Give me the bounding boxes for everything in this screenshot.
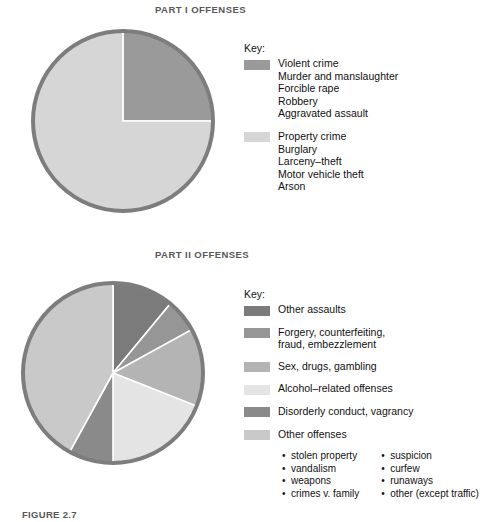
swatch-alcohol-related bbox=[244, 385, 270, 395]
bullet-curfew: curfew bbox=[381, 463, 479, 476]
sub-item-forcible-rape: Forcible rape bbox=[278, 82, 398, 95]
key-label-sex-drugs-gambling: Sex, drugs, gambling bbox=[278, 360, 377, 373]
key-row-other-offenses: Other offenses bbox=[244, 428, 413, 441]
figure-caption-number: FIGURE 2.7 bbox=[22, 509, 77, 520]
part-2-pie-chart bbox=[20, 280, 206, 466]
key-row-sex-drugs-gambling: Sex, drugs, gambling bbox=[244, 360, 413, 373]
sub-item-burglary: Burglary bbox=[278, 143, 398, 156]
bullet-column-right: suspicion curfew runaways other (except … bbox=[381, 450, 479, 500]
part-1-key-heading: Key: bbox=[244, 42, 398, 54]
key-row-forgery: Forgery, counterfeiting, fraud, embezzle… bbox=[244, 326, 413, 351]
key-label-alcohol-related: Alcohol–related offenses bbox=[278, 382, 393, 395]
key-row-disorderly-conduct: Disorderly conduct, vagrancy bbox=[244, 405, 413, 418]
swatch-disorderly-conduct bbox=[244, 407, 270, 417]
bullet-vandalism: vandalism bbox=[282, 463, 359, 476]
bullet-other-except-traffic: other (except traffic) bbox=[381, 488, 479, 501]
key-label-forgery-line1: Forgery, counterfeiting, bbox=[278, 326, 385, 339]
key-row-other-assaults: Other assaults bbox=[244, 303, 413, 316]
key-label-other-assaults: Other assaults bbox=[278, 303, 346, 316]
sub-list-violent-crime: Murder and manslaughter Forcible rape Ro… bbox=[278, 70, 398, 120]
bullet-suspicion: suspicion bbox=[381, 450, 479, 463]
sub-item-robbery: Robbery bbox=[278, 95, 398, 108]
sub-item-larceny-theft: Larceny–theft bbox=[278, 155, 398, 168]
part-1-pie-svg bbox=[30, 28, 216, 214]
key-row-alcohol-related: Alcohol–related offenses bbox=[244, 382, 413, 395]
bullet-crimes-v-family: crimes v. family bbox=[282, 488, 359, 501]
bullet-stolen-property: stolen property bbox=[282, 450, 359, 463]
bullet-column-left: stolen property vandalism weapons crimes… bbox=[282, 450, 359, 500]
part-1-key: Key: Violent crime Murder and manslaught… bbox=[244, 42, 398, 193]
key-label-property-crime: Property crime bbox=[278, 130, 346, 143]
other-offenses-bullet-list: stolen property vandalism weapons crimes… bbox=[282, 450, 479, 500]
key-label-violent-crime: Violent crime bbox=[278, 57, 339, 70]
sub-item-motor-vehicle-theft: Motor vehicle theft bbox=[278, 168, 398, 181]
swatch-other-offenses bbox=[244, 430, 270, 440]
key-group-spacer bbox=[244, 120, 398, 130]
part-2-key: Key: Other assaults Forgery, counterfeit… bbox=[244, 288, 413, 442]
key-label-disorderly-conduct: Disorderly conduct, vagrancy bbox=[278, 405, 413, 418]
sub-item-arson: Arson bbox=[278, 180, 398, 193]
part-2-pie-svg bbox=[20, 280, 206, 466]
swatch-other-assaults bbox=[244, 306, 270, 316]
swatch-forgery bbox=[244, 328, 270, 338]
key-label-forgery-line2: fraud, embezzlement bbox=[278, 338, 385, 351]
swatch-violent-crime bbox=[244, 60, 270, 70]
part-2-key-heading: Key: bbox=[244, 288, 413, 300]
key-label-other-offenses: Other offenses bbox=[278, 428, 347, 441]
key-row-violent-crime: Violent crime bbox=[244, 57, 398, 70]
part-1-title: PART I OFFENSES bbox=[155, 4, 246, 15]
part-1-pie-chart bbox=[30, 28, 216, 214]
bullet-weapons: weapons bbox=[282, 475, 359, 488]
key-row-property-crime: Property crime bbox=[244, 130, 398, 143]
part-2-title: PART II OFFENSES bbox=[155, 249, 249, 260]
sub-item-aggravated-assault: Aggravated assault bbox=[278, 107, 398, 120]
bullet-runaways: runaways bbox=[381, 475, 479, 488]
figure-caption: FIGURE 2.7 bbox=[22, 509, 77, 520]
swatch-property-crime bbox=[244, 132, 270, 142]
swatch-sex-drugs-gambling bbox=[244, 362, 270, 372]
sub-list-property-crime: Burglary Larceny–theft Motor vehicle the… bbox=[278, 143, 398, 193]
sub-item-murder: Murder and manslaughter bbox=[278, 70, 398, 83]
